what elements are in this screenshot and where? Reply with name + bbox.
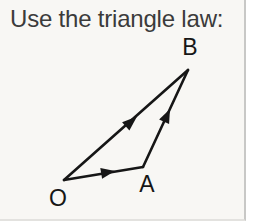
vector-ob-arrowhead-icon <box>122 117 137 131</box>
triangle-law-diagram: O A B <box>0 0 244 221</box>
page: Use the triangle law: O A B <box>0 0 254 221</box>
question-card: Use the triangle law: O A B <box>0 0 246 221</box>
vertex-label-o: O <box>49 185 67 211</box>
vector-ab-arrowhead-icon <box>159 109 170 124</box>
vector-oa-arrowhead-icon <box>100 168 115 179</box>
vertex-label-a: A <box>139 171 155 197</box>
vertex-label-b: B <box>182 34 197 60</box>
